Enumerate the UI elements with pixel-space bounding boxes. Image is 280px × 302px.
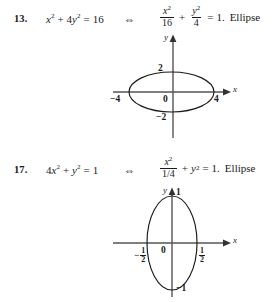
fraction-numerator: x2 <box>162 156 174 168</box>
equation-left-17: 4x2+y2=1 <box>46 163 98 176</box>
fraction-numerator: y2 <box>190 5 202 17</box>
x-tick-right-numerator: 1 <box>199 247 205 255</box>
equation-line-17: 17. 4x2+y2=1 ⇔ x21/4+y2=1.Ellipse <box>0 155 280 185</box>
term1-exponent: 2 <box>56 163 60 171</box>
frac1-numer-exponent: 2 <box>167 4 171 12</box>
graph-svg-17 <box>0 183 280 301</box>
term2-exponent: 2 <box>77 163 81 171</box>
x-tick-left-13: −4 <box>110 94 120 104</box>
equation-right-13: x216+y24=1.Ellipse <box>158 5 260 28</box>
plus-sign-right: + <box>182 162 188 174</box>
x-tick-left-fraction: 12 <box>140 247 146 264</box>
problem-number-17: 17. <box>14 164 27 175</box>
equals-sign-right: = <box>202 162 208 174</box>
y-axis-label-13: y <box>164 32 168 42</box>
fraction-y-over-4: y24 <box>190 5 202 28</box>
origin-label-17: 0 <box>161 245 166 255</box>
y-axis-label-17: y <box>163 185 167 195</box>
plus-sign: + <box>63 164 69 176</box>
y-tick-bottom-17: −1 <box>176 283 186 293</box>
x-tick-right-denominator: 2 <box>199 255 205 264</box>
frac1-denominator: 16 <box>160 17 174 29</box>
frac1-numer-exponent: 2 <box>169 155 173 163</box>
plus-sign-right: + <box>179 11 185 23</box>
equation-left-13: x2+4y2=16 <box>46 12 104 25</box>
y-tick-bottom-13: −2 <box>156 112 166 122</box>
fraction-x-over-one-quarter: x21/4 <box>160 156 177 179</box>
x-axis-label-17: x <box>233 235 237 245</box>
x-tick-left-sign: − <box>134 251 139 260</box>
equals-sign: = <box>84 13 90 25</box>
conclusion-13: Ellipse <box>230 11 261 23</box>
equation-right-17: x21/4+y2=1.Ellipse <box>158 156 255 179</box>
term2-exponent: 2 <box>77 12 81 20</box>
graph-svg-13 <box>0 30 280 148</box>
frac2-denominator: 4 <box>192 17 201 29</box>
graph-13: y x 0 2 −2 −4 4 <box>0 30 280 148</box>
y-axis-arrow <box>169 188 176 196</box>
y-tick-top-13: 2 <box>158 63 163 73</box>
problem-17: 17. 4x2+y2=1 ⇔ x21/4+y2=1.Ellipse y x 0 … <box>0 151 280 302</box>
iff-symbol-17: ⇔ <box>124 164 135 176</box>
x-axis-arrow <box>223 88 231 95</box>
x-tick-left-numerator: 1 <box>140 247 146 255</box>
x-tick-right-17: 12 <box>199 247 205 264</box>
x-axis-arrow <box>223 239 231 246</box>
equals-sign: = <box>84 164 90 176</box>
iff-symbol-13: ⇔ <box>124 13 135 25</box>
origin-label-13: 0 <box>163 94 168 104</box>
fraction-x-over-16: x216 <box>160 5 174 28</box>
problem-number-13: 13. <box>14 13 27 24</box>
x-axis-label-13: x <box>233 84 237 94</box>
frac2-numer-exponent: 2 <box>197 4 201 12</box>
x-tick-right-fraction: 12 <box>199 247 205 264</box>
right-rhs: 1. <box>216 11 224 23</box>
fraction-numerator: x2 <box>161 5 173 17</box>
graph-17: y x 0 1 −1 −12 12 <box>0 183 280 301</box>
right-term2-exponent: 2 <box>196 164 200 172</box>
plus-sign: + <box>57 13 63 25</box>
right-rhs: 1. <box>212 162 220 174</box>
left-rhs: 16 <box>93 13 104 25</box>
problem-13: 13. x2+4y2=16 ⇔ x216+y24=1.Ellipse y x 0… <box>0 0 280 151</box>
left-rhs: 1 <box>93 164 99 176</box>
term1-exponent: 2 <box>51 12 55 20</box>
equals-sign-right: = <box>207 11 213 23</box>
x-tick-right-13: 4 <box>214 94 219 104</box>
frac1-denominator: 1/4 <box>160 168 177 180</box>
conclusion-17: Ellipse <box>225 162 256 174</box>
x-tick-left-denominator: 2 <box>140 255 146 264</box>
x-tick-left-17: −12 <box>134 247 146 264</box>
y-tick-top-17: 1 <box>176 187 181 197</box>
y-axis-arrow <box>170 35 177 43</box>
